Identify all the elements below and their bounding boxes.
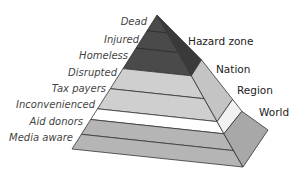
label-inconvenienced: Inconvenienced xyxy=(16,100,95,110)
label-media-aware: Media aware xyxy=(9,133,73,143)
label-injured: Injured xyxy=(104,35,139,45)
label-world: World xyxy=(259,107,289,118)
label-aid-donors: Aid donors xyxy=(30,117,83,127)
label-nation: Nation xyxy=(216,64,250,75)
label-region: Region xyxy=(237,85,273,96)
label-disrupted: Disrupted xyxy=(68,68,117,78)
label-hazard-zone: Hazard zone xyxy=(188,36,253,47)
label-tax-payers: Tax payers xyxy=(52,84,106,94)
label-homeless: Homeless xyxy=(79,51,128,61)
label-dead: Dead xyxy=(121,17,147,27)
